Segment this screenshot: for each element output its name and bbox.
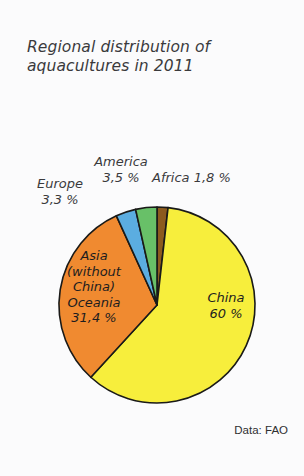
pie-label-america: America 3,5 % [84,154,158,185]
pie-chart-svg [0,0,304,476]
source-attribution: Data: FAO [234,424,288,436]
pie-slice-group [59,207,255,403]
pie-label-africa: Africa 1,8 % [152,170,242,186]
pie-chart: China 60 % Asia (without China) Oceania … [0,0,304,476]
chart-page: Regional distribution of aquacultures in… [0,0,304,476]
